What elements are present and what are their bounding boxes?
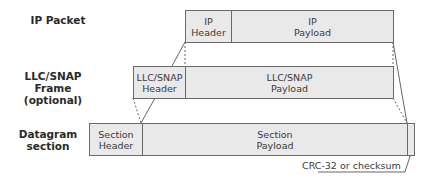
- ip-header-label: IP Header: [191, 16, 226, 38]
- ip-header-box: IP Header: [185, 10, 232, 43]
- connector-solid-right: [393, 42, 407, 123]
- section-header-box: Section Header: [89, 123, 143, 156]
- crc-box: [407, 123, 415, 156]
- llc-header-box: LLC/SNAP Header: [133, 66, 186, 99]
- connector-dashed-llc-dg: [133, 98, 141, 123]
- row-label-llc-snap: LLC/SNAP Frame (optional): [8, 70, 98, 106]
- llc-payload-label: LLC/SNAP Payload: [267, 72, 313, 94]
- section-payload-box: Section Payload: [142, 123, 408, 156]
- llc-header-label: LLC/SNAP Header: [137, 72, 183, 94]
- section-header-label: Section Header: [98, 129, 133, 151]
- crc-annotation: CRC-32 or checksum: [302, 160, 401, 171]
- ip-payload-box: IP Payload: [231, 10, 394, 43]
- row-label-datagram-section: Datagram section: [8, 128, 88, 152]
- ip-payload-label: IP Payload: [294, 16, 331, 38]
- llc-payload-box: LLC/SNAP Payload: [185, 66, 394, 99]
- connector-solid-llc-dg: [141, 98, 155, 123]
- row-label-ip-packet: IP Packet: [18, 14, 98, 26]
- connector-solid-ip-llc: [172, 42, 185, 66]
- section-payload-label: Section Payload: [256, 129, 293, 151]
